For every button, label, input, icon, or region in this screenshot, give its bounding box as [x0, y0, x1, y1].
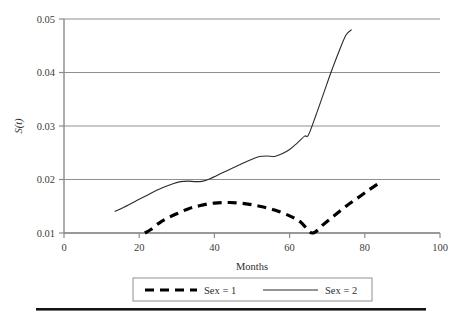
y-axis-title: S(t) [13, 118, 25, 134]
y-tick-label: 0.02 [37, 174, 55, 185]
y-axis-title-group: S(t) [13, 118, 25, 134]
legend-label-sex-2: Sex = 2 [325, 285, 357, 296]
x-tick-label: 20 [134, 242, 145, 253]
figure-container: 020406080100 0.010.020.030.040.05 Months… [0, 0, 462, 318]
y-tick-label: 0.04 [37, 67, 56, 78]
x-tick-label: 80 [360, 242, 371, 253]
chart-background [0, 0, 462, 318]
y-tick-label: 0.03 [37, 121, 55, 132]
legend: Sex = 1 Sex = 2 [133, 278, 372, 301]
x-tick-label: 0 [61, 242, 66, 253]
footer-rule [36, 308, 426, 311]
x-tick-label: 60 [284, 242, 295, 253]
x-tick-label: 100 [432, 242, 448, 253]
legend-label-sex-1: Sex = 1 [204, 285, 236, 296]
x-axis-title: Months [236, 261, 268, 272]
y-tick-label: 0.05 [37, 14, 55, 25]
x-tick-label: 40 [209, 242, 220, 253]
survival-line-chart: 020406080100 0.010.020.030.040.05 Months… [0, 0, 462, 318]
y-tick-label: 0.01 [37, 228, 55, 239]
